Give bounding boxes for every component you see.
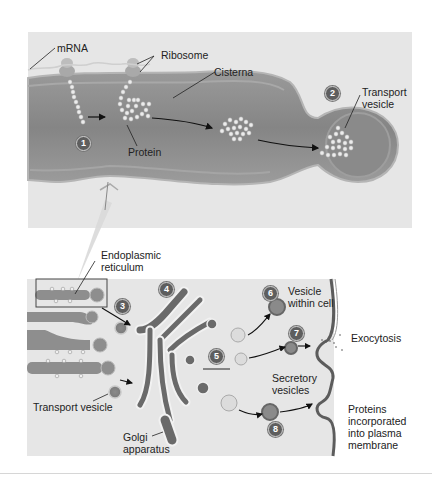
label-cisterna: Cisterna (214, 66, 253, 78)
label-transport-vesicle-bottom: Transport vesicle (33, 401, 113, 413)
label-proteins-incorporated: Proteins incorporated into plasma membra… (348, 403, 406, 451)
bottom-divider (0, 473, 432, 474)
label-protein: Protein (128, 146, 161, 158)
step-badge-8: 8 (268, 422, 283, 437)
label-golgi-apparatus: Golgi apparatus (123, 431, 170, 455)
step-badge-3: 3 (115, 299, 130, 314)
label-endoplasmic-reticulum: Endoplasmic reticulum (101, 249, 161, 273)
step-badge-4: 4 (159, 282, 174, 297)
step-badge-5: 5 (209, 349, 224, 364)
diagram-stage: mRNA Ribosome Cisterna Protein Transport… (0, 0, 432, 484)
label-secretory-vesicles: Secretory vesicles (272, 372, 317, 396)
top-panel (28, 32, 412, 228)
step-badge-2: 2 (325, 86, 340, 101)
label-ribosome: Ribosome (161, 49, 208, 61)
step-badge-6: 6 (263, 286, 278, 301)
label-mrna: mRNA (57, 42, 88, 54)
step-badge-7: 7 (289, 326, 304, 341)
label-transport-vesicle-top: Transport vesicle (362, 86, 407, 110)
label-exocytosis: Exocytosis (351, 332, 401, 344)
step-badge-1: 1 (76, 136, 91, 151)
label-vesicle-within-cell: Vesicle within cell (288, 285, 334, 309)
